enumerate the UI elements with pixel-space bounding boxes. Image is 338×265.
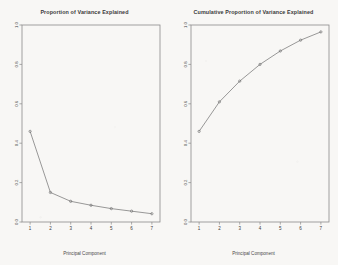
ytick-label: 0.0 xyxy=(14,218,19,225)
figure-canvas: Proportion of Variance Explained 0.00.20… xyxy=(0,0,338,265)
ytick-label: 0.8 xyxy=(14,61,19,68)
xtick-label: 7 xyxy=(320,226,323,231)
xtick-label: 3 xyxy=(238,226,241,231)
xtick-label: 2 xyxy=(49,226,52,231)
ytick-label: 0.0 xyxy=(183,218,188,225)
ytick-label: 1.0 xyxy=(183,21,188,28)
xtick-label: 2 xyxy=(218,226,221,231)
ytick-label: 0.6 xyxy=(14,100,19,107)
xtick-label: 4 xyxy=(90,226,93,231)
ytick-label: 0.8 xyxy=(183,61,188,68)
xtick-label: 3 xyxy=(69,226,72,231)
ytick-label: 0.4 xyxy=(14,140,19,147)
xtick-label: 5 xyxy=(279,226,282,231)
plot-area-cumulative-pve: 0.00.20.40.60.81.01234567 xyxy=(169,0,338,265)
chart-panel-cumulative-pve: Cumulative Proportion of Variance Explai… xyxy=(169,0,338,265)
data-series-line xyxy=(199,32,321,131)
ytick-label: 1.0 xyxy=(14,21,19,28)
xtick-label: 7 xyxy=(151,226,154,231)
xaxis-title-pve: Principal Component xyxy=(0,251,169,256)
data-point-marker xyxy=(198,130,200,132)
data-series-line xyxy=(30,131,152,213)
xtick-label: 4 xyxy=(259,226,262,231)
ytick-label: 0.4 xyxy=(183,140,188,147)
ytick-label: 0.6 xyxy=(183,100,188,107)
xtick-label: 6 xyxy=(130,226,133,231)
xtick-label: 1 xyxy=(29,226,32,231)
plot-area-pve: 0.00.20.40.60.81.01234567 xyxy=(0,0,169,265)
xtick-label: 5 xyxy=(110,226,113,231)
chart-panel-pve: Proportion of Variance Explained 0.00.20… xyxy=(0,0,169,265)
ytick-label: 0.2 xyxy=(183,179,188,186)
xtick-label: 1 xyxy=(198,226,201,231)
xaxis-title-cumulative-pve: Principal Component xyxy=(169,251,338,256)
ytick-label: 0.2 xyxy=(14,179,19,186)
xtick-label: 6 xyxy=(299,226,302,231)
